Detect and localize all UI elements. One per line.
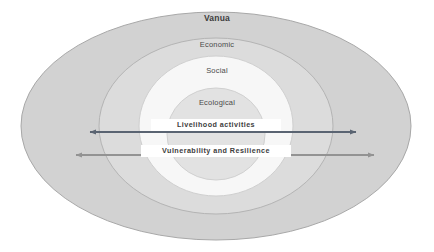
diagram-canvas: Vanua Economic Social Ecological Livelih… <box>0 0 434 252</box>
arrow-label-vulnerability-and-resilience: Vulnerability and Resilience <box>141 145 291 157</box>
arrow-label-livelihood-activities: Livelihood activities <box>151 119 281 131</box>
ring-label-ecological: Ecological <box>0 98 434 107</box>
ring-label-vanua: Vanua <box>0 13 434 23</box>
ring-label-social: Social <box>0 66 434 75</box>
ring-label-economic: Economic <box>0 40 434 49</box>
